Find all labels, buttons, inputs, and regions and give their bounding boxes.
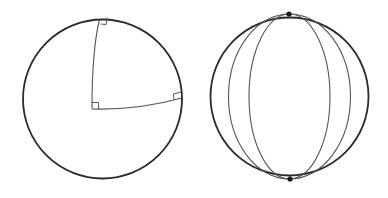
meridian-outer bbox=[229, 14, 351, 179]
right-sphere bbox=[211, 11, 369, 181]
diagram-canvas bbox=[0, 0, 388, 198]
meridian-inner bbox=[249, 14, 330, 179]
left-sphere-outline bbox=[23, 20, 182, 179]
triangle-side-vertical bbox=[92, 20, 100, 110]
south-pole-dot bbox=[287, 176, 292, 181]
left-sphere bbox=[23, 18, 182, 179]
right-sphere-outline bbox=[211, 18, 369, 176]
north-pole-dot bbox=[286, 11, 291, 16]
right-angle-marker-top bbox=[101, 18, 108, 25]
triangle-side-horizontal bbox=[92, 98, 182, 109]
right-angle-marker-vertex bbox=[92, 103, 99, 110]
